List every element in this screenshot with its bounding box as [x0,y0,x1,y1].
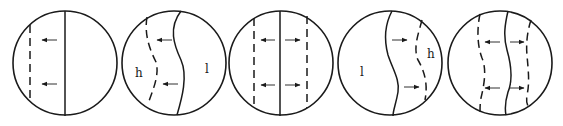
dashed-boundary-curve [146,17,157,104]
panel-3-circle [229,11,333,115]
label-h: h [135,66,143,80]
dashed-boundary-curve-left [478,14,485,112]
diagram-canvas: h l l h [0,0,563,126]
solid-boundary-curve [385,11,398,116]
solid-boundary-curve [173,11,184,115]
label-h: h [427,47,435,61]
label-l: l [360,65,364,79]
panel-4: l h [338,11,442,116]
dashed-boundary-curve [416,20,426,100]
panel-4-circle [338,11,442,115]
panel-1 [13,11,117,116]
label-l: l [205,62,209,76]
solid-boundary-curve [505,11,511,115]
panel-2: h l [122,11,226,115]
panel-5-circle [448,11,552,115]
panel-5 [448,11,552,115]
panel-3 [229,11,333,116]
dashed-boundary-curve-right [527,20,531,106]
